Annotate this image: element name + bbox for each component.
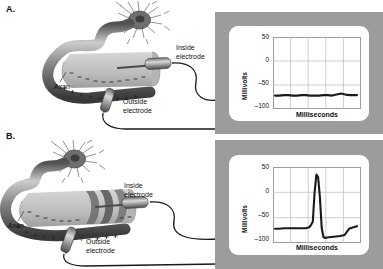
oscilloscope-screen-a: Millivolts 50 0 –50 –100 [229, 26, 369, 121]
oscilloscope-a: Millivolts 50 0 –50 –100 [215, 12, 383, 134]
chart-a-ytick-2: –50 [243, 79, 269, 86]
chart-a-svg [273, 37, 361, 109]
outside-electrode-wire-a [103, 113, 218, 129]
chart-b-ytick-0: 50 [243, 163, 269, 170]
inside-electrode-wire-b [150, 202, 218, 239]
chart-b-plot-area [273, 167, 361, 243]
chart-b-ytick-2: –50 [243, 211, 269, 218]
chart-b-ytick-3: –100 [243, 235, 269, 242]
outside-electrode-wire-b [64, 254, 218, 266]
panel-b: B. [0, 131, 383, 269]
chart-b-ylabel: Millivolts [241, 205, 248, 233]
oscilloscope-b: Millivolts 50 0 –50 –100 [215, 140, 383, 269]
chart-a-ytick-0: 50 [243, 33, 269, 40]
chart-b-svg [273, 167, 361, 243]
chart-a-ytick-1: 0 [243, 56, 269, 63]
chart-a-ytick-3: –100 [243, 102, 269, 109]
chart-b-ytick-1: 0 [243, 187, 269, 194]
inside-electrode-wire-a [172, 63, 218, 100]
panel-a: A. [0, 0, 383, 134]
chart-a-plot-area [273, 37, 361, 109]
chart-b: Millivolts 50 0 –50 –100 [229, 155, 369, 255]
chart-a: Millivolts 50 0 –50 –100 [229, 26, 369, 121]
chart-b-xlabel: Milliseconds [263, 244, 371, 251]
chart-a-frame [274, 38, 361, 109]
chart-a-xlabel: Milliseconds [263, 111, 371, 118]
chart-a-ylabel: Millivolts [241, 72, 248, 100]
oscilloscope-screen-b: Millivolts 50 0 –50 –100 [229, 155, 369, 255]
